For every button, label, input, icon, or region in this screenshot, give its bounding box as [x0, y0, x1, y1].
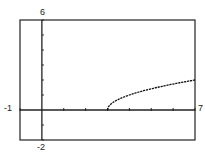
axes: [20, 20, 195, 140]
axis-ticks: [20, 20, 195, 140]
function-curve: [108, 80, 196, 110]
viewing-window-frame: [20, 20, 195, 140]
ymin-label: -2: [37, 143, 45, 152]
ymax-label: 6: [40, 8, 45, 17]
graph-plot: [0, 0, 205, 154]
xmin-label: -1: [4, 104, 12, 113]
xmax-label: 7: [198, 104, 203, 113]
